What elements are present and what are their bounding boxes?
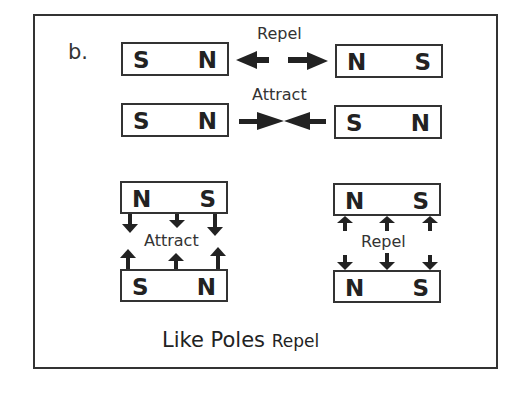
arrow-down-icon (207, 214, 223, 236)
arrow-up-icon (210, 247, 226, 269)
arrow-up-icon (379, 216, 395, 231)
caption-main: Like Poles (162, 328, 265, 352)
arrow-down-icon (169, 214, 185, 228)
arrow-up-icon (168, 253, 184, 269)
arrow-left-icon (236, 51, 269, 69)
arrow-down-icon (379, 253, 395, 270)
arrow-down-icon (122, 214, 138, 233)
figure-caption: Like Poles Repel (162, 328, 319, 352)
arrow-left-icon (284, 112, 326, 130)
arrow-up-icon (422, 216, 438, 231)
arrow-down-icon (422, 255, 438, 270)
arrow-up-icon (337, 216, 353, 231)
caption-tail: Repel (272, 331, 319, 351)
arrow-down-icon (337, 255, 353, 270)
arrow-up-icon (120, 249, 136, 269)
arrow-right-icon (288, 52, 328, 70)
arrow-right-icon (239, 112, 284, 130)
